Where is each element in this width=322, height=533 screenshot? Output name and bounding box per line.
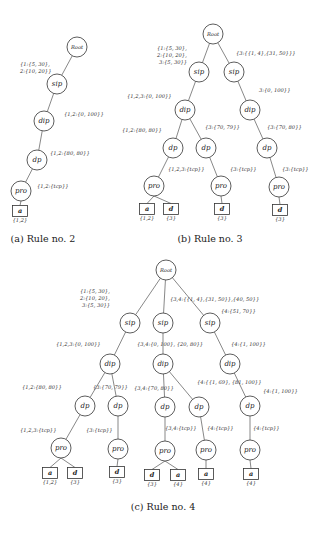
leaf-edge [117,459,118,467]
tree-edge [234,373,245,397]
figure-rule-a: Rootsipdipdpproa{1,2}{1:{5, 30},2:{10, 2… [11,37,104,244]
tree-node-pro: pro [144,176,164,196]
tree-node-dp: dp [27,150,47,170]
svg-text:sip: sip [229,68,240,76]
edge-condition-label: {1,2:{80, 80}} [122,127,162,133]
tree-node-dip: dip [153,354,173,374]
edge-condition-label: {3,4:{0, 100}, {20, 80}} [137,341,203,347]
rule-trees-diagram: Rootsipdipdpproa{1,2}{1:{5, 30},2:{10, 2… [0,0,322,533]
tree-node-dp: dp [155,397,175,417]
tree-node-dip: dip [220,354,240,374]
svg-text:dp: dp [81,402,90,410]
edge-condition-label: {1:{5, 30}, [157,45,187,51]
tree-node-sip: sip [153,313,173,333]
leaf-rule-set: {3} [166,215,176,221]
svg-text:pro: pro [148,182,160,190]
tree-edge [201,417,205,440]
tree-edge [214,332,225,355]
tree-edge [188,81,195,100]
tree-node-dip: dip [240,100,260,120]
edge-condition-label: {4:{tcp}} [207,425,234,432]
svg-text:sip: sip [125,319,136,327]
svg-text:dip: dip [38,117,50,125]
tree-node-pro: pro [108,439,128,459]
svg-text:a: a [48,469,52,477]
edge-condition-label: {3:{70, 80}} [267,124,302,130]
tree-edge [176,120,182,139]
svg-text:pro: pro [273,183,285,191]
leaf-edge [61,458,75,468]
svg-text:dip: dip [157,360,169,368]
tree-node-root: Root [67,37,87,57]
leaf-edge [250,460,251,469]
tree-node-pro: pro [51,438,71,458]
leaf-rule-set: {3} [147,481,157,487]
svg-text:Root: Root [159,267,173,273]
tree-node-sip: sip [224,62,244,82]
tree-node-dp: dp [196,138,216,158]
svg-text:d: d [220,205,225,213]
edge-condition-label: {1,2:{0, 100}} [64,111,104,117]
edge-condition-label: {4:{1, 100}} [263,388,298,394]
edge-condition-label: {3:{70, 79}} [205,124,240,130]
edge-condition-label: {3:{70, 79}} [93,384,128,390]
edge-condition-label: {3,4:{{1, 4},{31, 50}},{40, 50}} [170,296,259,302]
svg-text:pro: pro [215,182,227,190]
leaf-edge [165,461,178,470]
edge-condition-label: 3:{0, 100}} [259,87,290,93]
svg-text:dp: dp [33,156,42,164]
leaf-rule-set: {3} [70,479,80,485]
figure-rule-c: Rootsipsipsipdipdipdipdpdpdpdpdppropropr… [20,260,298,512]
action-leaf: a [140,204,155,215]
leaf-edge [50,458,61,468]
edge-condition-label: 2:{10, 20}} [19,68,51,74]
figure-caption: (c) Rule no. 4 [131,501,195,512]
edge-condition-label: 3:{5, 30}} [159,59,187,65]
svg-text:dp: dp [161,403,170,411]
leaf-edge [20,201,21,206]
tree-edge [62,56,72,75]
tree-node-dp: dp [189,397,209,417]
tree-node-dp: dp [257,138,277,158]
svg-text:a: a [176,471,180,479]
svg-text:dp: dp [195,403,204,411]
edge-condition-label: {1,2:{80, 80}} [50,150,90,156]
leaf-rule-set: {4} [173,481,183,487]
figure-caption: (a) Rule no. 2 [11,233,76,244]
figure-rule-b: Rootsipsipdipdipdpdpdpproproproa{1,2}d{3… [122,24,309,244]
tree-node-pro: pro [196,440,216,460]
tree-edge [210,157,218,176]
action-leaf: d [164,204,179,215]
tree-edge [202,43,209,62]
svg-text:dp: dp [169,144,178,152]
svg-text:Root: Root [206,31,220,37]
svg-text:dip: dip [179,106,191,114]
action-leaf: d [215,204,230,215]
svg-text:dip: dip [244,106,256,114]
edge-condition-label: {1,2,3:{0, 100}} [56,341,101,347]
edge-condition-label: {3:{tcp}} [282,166,309,173]
edge-condition-label: {1:{5, 30}, [80,288,110,294]
edge-condition-label: {1,2:{tcp}} [37,183,69,190]
tree-edge [238,81,246,101]
action-leaf: a [43,468,58,479]
svg-text:d: d [73,469,78,477]
leaf-rule-set: {1,2} [13,217,28,223]
action-leaf: d [273,205,288,216]
tree-node-pro: pro [11,181,31,201]
tree-edge [66,415,80,440]
leaf-rule-set: {3} [112,478,122,484]
edge-condition-label: {4:{{1, 69}, {81, 100}} [197,379,261,385]
tree-node-dip: dip [100,354,120,374]
edge-condition-label: 3:{5, 30}} [82,302,110,308]
tree-edge [39,131,42,150]
action-leaf: d [110,467,125,478]
tree-edge [254,119,263,139]
svg-text:d: d [278,206,283,214]
tree-node-sip: sip [47,74,67,94]
edge-condition-label: 2:{10, 20}, [79,295,110,301]
tree-node-dip: dip [34,111,54,131]
edge-condition-label: {1,2,3:{tcp}} [168,166,204,173]
svg-text:pro: pro [159,447,171,455]
svg-text:sip: sip [158,319,169,327]
